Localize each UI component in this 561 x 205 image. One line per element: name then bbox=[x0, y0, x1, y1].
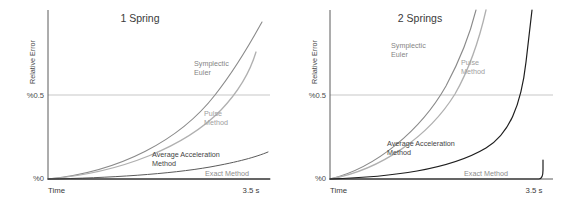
annotation-average-acceleration-line1: Average Acceleration bbox=[387, 139, 455, 148]
annotation-symplectic-euler-line2: Euler bbox=[194, 68, 211, 77]
chart-panel-one-spring: 1 Spring Relative Error %0.5 %0 Time 3.5… bbox=[0, 0, 281, 205]
x-axis-end-label: 3.5 s bbox=[243, 186, 260, 195]
y-tick-label-half: %0.5 bbox=[309, 91, 326, 100]
annotation-average-acceleration-line2: Method bbox=[387, 148, 411, 157]
annotation-pulse-method-line2: Method bbox=[204, 118, 228, 127]
y-tick-label-zero: %0 bbox=[315, 174, 326, 183]
annotation-average-acceleration-line1: Average Acceleration bbox=[152, 150, 220, 159]
annotation-pulse-method-line1: Pulse bbox=[204, 109, 222, 118]
curve-average-acceleration bbox=[330, 10, 532, 179]
y-tick-label-half: %0.5 bbox=[27, 91, 44, 100]
annotation-average-acceleration-line2: Method bbox=[152, 159, 176, 168]
chart-panel-two-springs: 2 Springs Relative Error %0.5 %0 Time 3.… bbox=[281, 0, 561, 205]
y-tick-label-zero: %0 bbox=[33, 174, 44, 183]
annotation-exact-method: Exact Method bbox=[464, 169, 508, 178]
annotation-symplectic-euler-line2: Euler bbox=[391, 50, 408, 59]
x-axis-end-label: 3.5 s bbox=[526, 186, 543, 195]
one-spring-svg: 1 Spring Relative Error %0.5 %0 Time 3.5… bbox=[0, 0, 281, 205]
figure-container: 1 Spring Relative Error %0.5 %0 Time 3.5… bbox=[0, 0, 561, 205]
two-springs-svg: 2 Springs Relative Error %0.5 %0 Time 3.… bbox=[281, 0, 561, 205]
annotation-pulse-method-line1: Pulse bbox=[461, 58, 479, 67]
page-title-two-springs: 2 Springs bbox=[398, 12, 442, 24]
annotation-symplectic-euler-line1: Symplectic bbox=[391, 41, 426, 50]
x-axis-label: Time bbox=[48, 186, 65, 195]
y-axis-label: Relative Error bbox=[310, 39, 319, 84]
page-title-one-spring: 1 Spring bbox=[120, 12, 159, 24]
x-axis-label: Time bbox=[330, 186, 347, 195]
y-axis-label: Relative Error bbox=[28, 39, 37, 84]
annotation-exact-method: Exact Method bbox=[205, 169, 249, 178]
annotation-symplectic-euler-line1: Symplectic bbox=[194, 59, 229, 68]
annotation-pulse-method-line2: Method bbox=[461, 67, 485, 76]
